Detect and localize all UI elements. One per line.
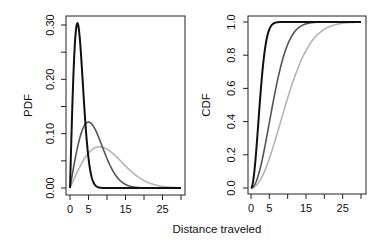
y-tick-label: 0.4 bbox=[225, 114, 237, 129]
y-tick-label: 1.0 bbox=[225, 14, 237, 29]
series-curve-sigma=2 bbox=[70, 23, 181, 188]
series-curve-sigma=8 bbox=[70, 147, 181, 188]
x-tick-label: 15 bbox=[300, 202, 312, 214]
x-tick-label: 25 bbox=[337, 202, 349, 214]
y-tick-label: 0.10 bbox=[44, 123, 56, 144]
pdf-panel: 0515250.000.100.200.30PDF bbox=[22, 14, 185, 215]
x-tick-label: 5 bbox=[266, 202, 272, 214]
y-tick-label: 0.0 bbox=[225, 180, 237, 195]
x-tick-label: 0 bbox=[67, 203, 73, 215]
figure-canvas: 0515250.000.100.200.30PDF 0515250.00.20.… bbox=[0, 0, 383, 248]
y-tick-label: 0.00 bbox=[44, 177, 56, 198]
x-tick-label: 0 bbox=[248, 202, 254, 214]
y-tick-label: 0.20 bbox=[44, 69, 56, 90]
y-tick-label: 0.30 bbox=[44, 14, 56, 35]
x-tick-label: 15 bbox=[119, 203, 131, 215]
y-axis-title: CDF bbox=[200, 93, 212, 117]
y-axis-title: PDF bbox=[22, 94, 34, 117]
y-tick-label: 0.8 bbox=[225, 48, 237, 63]
y-tick-label: 0.2 bbox=[225, 147, 237, 162]
cdf-panel: 0515250.00.20.40.60.81.0CDF bbox=[200, 14, 366, 214]
y-tick-label: 0.6 bbox=[225, 81, 237, 96]
figure: 0515250.000.100.200.30PDF 0515250.00.20.… bbox=[0, 0, 383, 248]
series-curve-sigma=8 bbox=[251, 22, 361, 188]
x-axis-title: Distance traveled bbox=[173, 223, 262, 235]
x-tick-label: 25 bbox=[156, 203, 168, 215]
x-tick-label: 5 bbox=[85, 203, 91, 215]
